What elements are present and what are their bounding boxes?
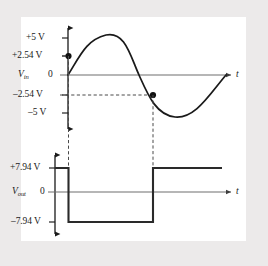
vout-square-wave	[55, 168, 222, 222]
vin-label-plus254: +2.54 V	[12, 50, 42, 60]
vin-label-plus5: +5 V	[26, 32, 45, 42]
vin-sine-curve	[68, 35, 226, 118]
vin-time-axis-label: t	[236, 69, 239, 79]
vout-label-plus794: +7.94 V	[10, 162, 40, 172]
top-plot-group	[60, 28, 231, 168]
bottom-plot-group	[48, 155, 231, 234]
vout-axis-title: Vout	[12, 186, 26, 196]
figure-root: +5 V +2.54 V Vin 0 –2.54 V –5 V t +7.94 …	[0, 0, 268, 266]
vin-label-minus254: –2.54 V	[13, 89, 43, 99]
vout-time-axis-label: t	[236, 186, 239, 196]
vout-label-zero: 0	[40, 186, 45, 196]
vin-label-minus5: –5 V	[28, 107, 46, 117]
vin-axis-title: Vin	[18, 69, 29, 79]
vout-label-minus794: –7.94 V	[11, 216, 41, 226]
vin-label-zero: 0	[48, 69, 53, 79]
